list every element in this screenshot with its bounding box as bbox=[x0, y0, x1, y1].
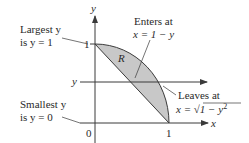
largest-y-line1: Largest y bbox=[20, 23, 62, 35]
smallest-y-line2: is y = 0 bbox=[20, 111, 53, 123]
leaves-at-radicand: 1 − y bbox=[200, 103, 223, 115]
enters-at-line1: Enters at bbox=[134, 15, 173, 27]
leaves-at-line2: x = √1 − y2 bbox=[175, 102, 227, 115]
leader-smallest bbox=[62, 117, 80, 123]
largest-y-line2: is y = 1 bbox=[20, 36, 53, 48]
slice-y-label: y bbox=[71, 75, 77, 87]
region-integration-diagram: y x 1 1 0 R y Largest y is y = 1 Smalles… bbox=[0, 0, 249, 143]
region-label: R bbox=[117, 52, 125, 64]
leaves-at-prefix: x = bbox=[175, 103, 194, 115]
origin-label: 0 bbox=[86, 127, 92, 139]
leader-leaves bbox=[163, 86, 176, 95]
region-r bbox=[95, 44, 169, 123]
smallest-y-line1: Smallest y bbox=[20, 98, 67, 110]
x-axis-label: x bbox=[210, 117, 216, 129]
enters-at-line2: x = 1 − y bbox=[132, 28, 174, 40]
y-axis-label: y bbox=[90, 2, 96, 14]
tick-label-x-one: 1 bbox=[166, 127, 172, 139]
tick-label-y-one: 1 bbox=[84, 38, 90, 50]
leaves-at-line1: Leaves at bbox=[178, 89, 220, 101]
